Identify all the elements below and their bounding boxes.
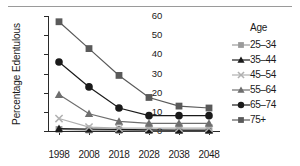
series-35-44 [55,125,213,134]
series-layer [48,16,214,131]
data-point [85,110,93,118]
x-tick-label: 2048 [189,150,229,160]
square-marker-icon [232,39,250,51]
y-axis-title-text: Percentage Edentulous [11,23,22,125]
x-marker-icon [232,69,250,81]
data-point [55,58,63,66]
legend: Age 25–3435–4445–5455–6465–7475+ [232,22,300,127]
series-line [59,62,209,116]
y-axis-title: Percentage Edentulous [10,16,22,131]
triangle-marker-icon [232,54,250,66]
legend-item-25-34[interactable]: 25–34 [232,37,300,52]
legend-item-45-54[interactable]: 45–54 [232,67,300,82]
legend-item-65-74[interactable]: 65–74 [232,97,300,112]
legend-title: Age [250,22,300,33]
legend-item-55-64[interactable]: 55–64 [232,82,300,97]
data-point [205,112,213,120]
legend-item-35-44[interactable]: 35–44 [232,52,300,67]
y-tick [44,131,48,132]
series-65-74 [55,58,213,119]
plot-area: 0102030405060 199820082018202820382048 [48,16,214,131]
legend-item-label: 55–64 [250,84,276,95]
series-line [59,95,209,124]
legend-item-label: 75+ [250,114,266,125]
legend-item-label: 45–54 [250,69,276,80]
data-point [55,115,62,122]
data-point [146,94,153,101]
legend-item-label: 25–34 [250,39,276,50]
data-point [55,90,63,98]
square-marker-icon [232,114,250,126]
data-point [175,112,183,120]
data-point [176,103,183,110]
triangle-marker-icon [232,84,250,96]
legend-items: 25–3435–4445–5455–6465–7475+ [232,37,300,127]
data-point [86,45,93,52]
legend-item-label: 35–44 [250,54,276,65]
series-55-64 [55,90,213,126]
circle-marker-icon [232,99,250,111]
data-point [85,83,93,91]
data-point [56,18,63,25]
legend-item-label: 65–74 [250,99,276,110]
header-divider [8,6,292,7]
data-point [115,104,123,112]
data-point [116,72,123,79]
data-point [206,105,213,112]
data-point [145,112,153,120]
legend-item-75-[interactable]: 75+ [232,112,300,127]
series-line [59,22,209,108]
series-75- [56,18,213,111]
chart-figure: Percentage Edentulous 0102030405060 1998… [0,0,300,166]
